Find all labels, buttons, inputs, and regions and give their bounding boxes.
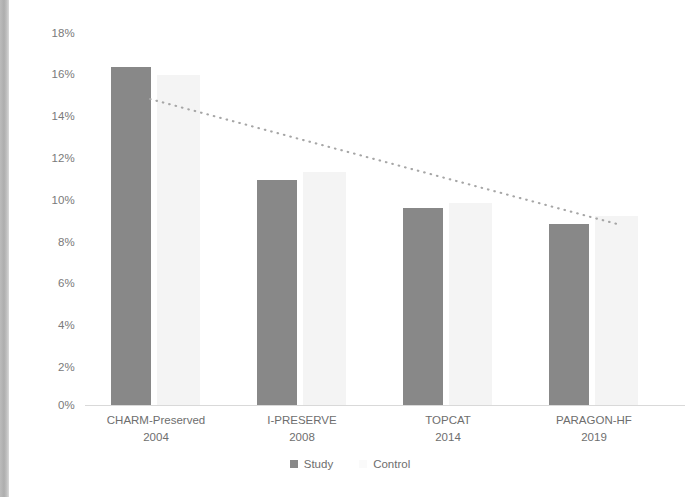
bar-study-paragon-hf[interactable]	[549, 224, 589, 405]
x-axis-label-name: TOPCAT	[363, 412, 533, 429]
x-axis-label-charm-preserved: CHARM-Preserved 2004	[71, 412, 241, 446]
legend-item-control[interactable]: Control	[359, 458, 410, 470]
bar-chart: 18% 16% 14% 12% 10% 8% 6% 4% 2% 0%	[0, 0, 700, 497]
y-axis-tick-16: 16%	[31, 68, 75, 80]
x-axis-line	[85, 405, 685, 406]
x-axis-label-paragon-hf: PARAGON-HF 2019	[509, 412, 679, 446]
x-axis-label-name: CHARM-Preserved	[71, 412, 241, 429]
bar-study-i-preserve[interactable]	[257, 180, 297, 405]
x-axis-label-year: 2014	[363, 429, 533, 446]
bar-control-topcat[interactable]	[449, 203, 492, 405]
bar-control-charm-preserved[interactable]	[157, 75, 200, 405]
y-axis-tick-8: 8%	[31, 236, 75, 248]
legend-label-control: Control	[373, 458, 410, 470]
chart-legend: Study Control	[0, 458, 700, 470]
bar-study-charm-preserved[interactable]	[111, 67, 151, 405]
legend-swatch-study-icon	[290, 460, 298, 468]
y-axis-tick-18: 18%	[31, 27, 75, 39]
bar-group-charm-preserved	[111, 27, 200, 405]
legend-item-study[interactable]: Study	[290, 458, 333, 470]
x-axis-label-year: 2004	[71, 429, 241, 446]
y-axis-tick-4: 4%	[31, 319, 75, 331]
y-axis-tick-6: 6%	[31, 277, 75, 289]
bar-control-paragon-hf[interactable]	[595, 216, 638, 405]
x-axis-label-topcat: TOPCAT 2014	[363, 412, 533, 446]
plot-area	[85, 27, 685, 405]
bar-control-i-preserve[interactable]	[303, 172, 346, 405]
x-axis-labels: CHARM-Preserved 2004 I-PRESERVE 2008 TOP…	[85, 412, 685, 456]
y-axis-tick-0: 0%	[31, 399, 75, 411]
y-axis-tick-14: 14%	[31, 110, 75, 122]
bar-study-topcat[interactable]	[403, 208, 443, 405]
x-axis-label-name: PARAGON-HF	[509, 412, 679, 429]
x-axis-label-year: 2019	[509, 429, 679, 446]
bar-group-i-preserve	[257, 27, 346, 405]
y-axis-tick-2: 2%	[31, 361, 75, 373]
y-axis-tick-12: 12%	[31, 152, 75, 164]
bar-group-paragon-hf	[549, 27, 638, 405]
legend-swatch-control-icon	[359, 460, 367, 468]
legend-label-study: Study	[304, 458, 333, 470]
x-axis-label-year: 2008	[217, 429, 387, 446]
y-axis: 18% 16% 14% 12% 10% 8% 6% 4% 2% 0%	[20, 0, 75, 497]
bar-group-topcat	[403, 27, 492, 405]
x-axis-label-i-preserve: I-PRESERVE 2008	[217, 412, 387, 446]
y-axis-tick-10: 10%	[31, 194, 75, 206]
x-axis-label-name: I-PRESERVE	[217, 412, 387, 429]
